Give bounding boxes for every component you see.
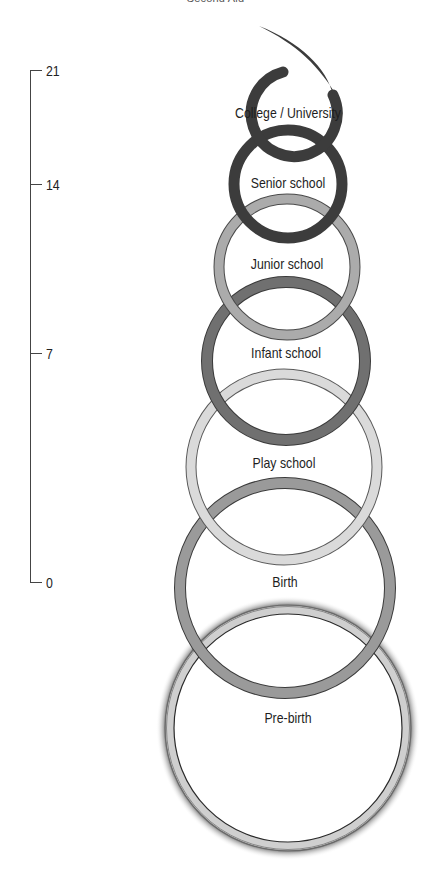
spiral-college-university — [251, 26, 339, 157]
label-junior-school: Junior school — [251, 256, 323, 271]
label-birth: Birth — [272, 574, 297, 589]
label-infant-school: Infant school — [251, 345, 321, 360]
tick-label-14: 14 — [46, 177, 60, 192]
tick-label-7: 7 — [46, 346, 53, 361]
tick-label-0: 0 — [46, 575, 53, 590]
label-college-university: College / University — [235, 105, 341, 120]
label-play-school: Play school — [253, 455, 316, 470]
label-pre-birth: Pre-birth — [264, 710, 311, 725]
tick-label-21: 21 — [46, 63, 60, 78]
label-senior-school: Senior school — [251, 175, 326, 190]
life-stages-diagram — [0, 0, 431, 882]
age-axis — [30, 70, 42, 583]
